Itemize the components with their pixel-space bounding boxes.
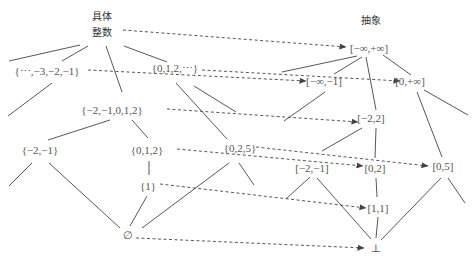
lattice-abstraction-diagram: 具体 整数 抽象 {⋯,−3,−2,−1} {0,1,2,⋯} {−2,−1,0… <box>0 0 475 260</box>
edge <box>132 120 148 138</box>
arrow-integers-to-top <box>123 30 346 47</box>
arrow-025 <box>256 147 428 166</box>
edge <box>106 46 122 92</box>
edge <box>375 128 376 158</box>
abstract-header: 抽象 <box>361 14 381 26</box>
node-interval-0-5: [0,5] <box>432 160 453 172</box>
edge <box>424 90 468 115</box>
edge <box>49 163 120 228</box>
edge <box>448 178 465 203</box>
arrow-m2-2 <box>167 109 358 122</box>
node-m2-m1: {−2,−1} <box>22 144 59 156</box>
edge <box>376 217 378 238</box>
edge <box>317 178 371 239</box>
node-singleton-1: {1} <box>140 180 156 192</box>
abstraction-arrows <box>88 30 428 248</box>
arrow-012 <box>177 149 363 166</box>
node-zero-inf: [0,+∞] <box>395 75 425 87</box>
arrow-singleton <box>160 184 366 208</box>
edge <box>194 86 236 112</box>
edge <box>48 120 110 140</box>
edge <box>142 163 229 228</box>
edge <box>9 163 32 186</box>
node-interval-1-1: [1,1] <box>367 202 388 214</box>
node-025: {0,2,5} <box>224 142 257 154</box>
node-interval-m2-m1: [−2,−1] <box>295 162 328 174</box>
integers-label: 整数 <box>92 26 112 38</box>
node-empty-set: ∅ <box>123 229 133 241</box>
edge <box>130 196 147 226</box>
edge <box>284 92 325 121</box>
node-range-m2-2: {−2,−1,0,1,2} <box>81 104 142 116</box>
edge <box>124 46 167 62</box>
arrow-empty <box>136 238 364 248</box>
edge <box>9 45 80 61</box>
node-bottom: ⊥ <box>371 242 381 254</box>
node-neg-inf-m1: [−∞,−1] <box>306 75 342 87</box>
edge <box>383 55 411 75</box>
edge <box>286 177 310 199</box>
edge <box>366 57 376 110</box>
edge <box>282 56 357 72</box>
edge <box>381 178 441 240</box>
edge <box>8 83 52 116</box>
node-interval-m2-2: [−2,2] <box>357 112 384 124</box>
edge <box>322 128 362 151</box>
node-naturals: {0,1,2,⋯} <box>152 62 198 74</box>
edge <box>376 178 377 197</box>
node-top-interval: [−∞,+∞] <box>350 42 388 54</box>
node-012: {0,1,2} <box>131 144 164 156</box>
node-negatives: {⋯,−3,−2,−1} <box>15 65 80 77</box>
edge <box>334 57 362 74</box>
edge <box>239 163 254 185</box>
edge <box>417 92 442 157</box>
node-interval-0-2: [0,2] <box>364 162 385 174</box>
concrete-header: 具体 <box>92 11 112 22</box>
